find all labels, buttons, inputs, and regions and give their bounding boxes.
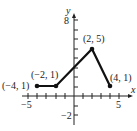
point-label-2-5: (2, 5) — [83, 33, 105, 45]
point-label-4-1: (4, 1) — [110, 72, 132, 84]
ytick-label-neg2: −2 — [61, 110, 72, 121]
xtick-label-neg5: −5 — [21, 99, 32, 110]
ytick-label-8: 8 — [64, 15, 69, 26]
point-neg2-1 — [54, 84, 59, 89]
point-4-1 — [108, 84, 113, 89]
coordinate-plot: y x 8 −2 −5 5 (−4, 1) (−2, 1) (2, 5) (4,… — [0, 0, 137, 131]
point-label-neg4-1: (−4, 1) — [2, 80, 29, 92]
point-neg4-1 — [35, 84, 40, 89]
y-axis-arrow-icon — [72, 13, 76, 18]
point-label-neg2-1: (−2, 1) — [31, 69, 58, 81]
xtick-label-5: 5 — [116, 99, 121, 110]
x-axis-label: x — [130, 84, 136, 95]
point-2-5 — [90, 47, 95, 52]
